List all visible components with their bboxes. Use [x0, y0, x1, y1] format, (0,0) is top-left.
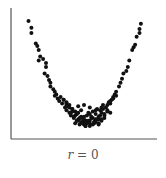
- data-point: [98, 113, 102, 117]
- data-point: [94, 108, 98, 112]
- caption-value: = 0: [73, 148, 98, 162]
- data-point: [46, 74, 50, 78]
- data-point: [133, 43, 137, 47]
- data-point: [44, 65, 48, 69]
- data-point: [102, 112, 106, 116]
- data-point: [117, 85, 121, 89]
- correlation-caption: r = 0: [0, 148, 166, 162]
- data-point: [84, 120, 88, 124]
- data-point: [88, 106, 92, 110]
- data-point: [105, 108, 109, 112]
- data-point: [65, 103, 69, 107]
- data-point: [29, 26, 33, 30]
- data-point: [82, 115, 86, 119]
- data-point: [27, 19, 31, 23]
- data-point: [119, 81, 123, 85]
- data-points: [27, 19, 143, 128]
- data-point: [37, 58, 41, 62]
- data-point: [70, 107, 74, 111]
- data-point: [105, 103, 109, 107]
- data-point: [138, 27, 142, 31]
- data-point: [76, 111, 80, 115]
- data-point: [48, 81, 52, 85]
- data-point: [114, 90, 118, 94]
- data-point: [100, 106, 104, 110]
- data-point: [44, 61, 48, 65]
- data-point: [88, 124, 92, 128]
- data-point: [41, 57, 45, 61]
- data-point: [76, 104, 80, 108]
- data-point: [138, 31, 142, 35]
- data-point: [126, 65, 130, 69]
- data-point: [88, 112, 92, 116]
- data-point: [135, 35, 139, 39]
- data-point: [54, 93, 58, 97]
- data-point: [139, 22, 143, 26]
- data-point: [92, 120, 96, 124]
- data-point: [60, 102, 64, 106]
- data-point: [69, 111, 73, 115]
- data-point: [84, 124, 88, 128]
- data-point: [120, 77, 124, 81]
- data-point: [82, 103, 86, 107]
- data-point: [29, 31, 33, 35]
- data-point: [124, 69, 128, 73]
- data-point: [114, 94, 118, 98]
- data-point: [97, 117, 101, 121]
- data-point: [37, 48, 41, 52]
- data-point: [127, 58, 131, 62]
- data-point: [35, 44, 39, 48]
- data-point: [97, 123, 101, 127]
- data-point: [62, 98, 66, 102]
